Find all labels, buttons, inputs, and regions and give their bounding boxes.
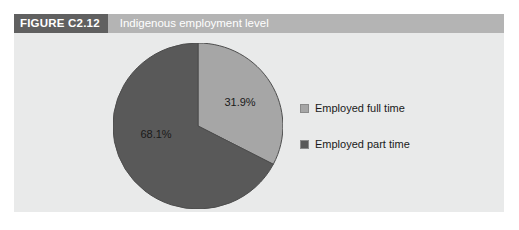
pie-value-label-part-time: 68.1% xyxy=(126,128,186,140)
legend-label-part-time: Employed part time xyxy=(315,138,410,150)
legend-swatch-icon-full-time xyxy=(300,104,309,113)
figure-title: Indigenous employment level xyxy=(108,14,504,33)
pie-chart xyxy=(113,43,283,209)
legend-item-employed-part-time: Employed part time xyxy=(300,137,480,151)
chart-legend: Employed full time Employed part time xyxy=(300,101,480,173)
chart-plot-area: 31.9% 68.1% Employed full time Employed … xyxy=(14,33,504,212)
pie-value-label-full-time: 31.9% xyxy=(210,96,270,108)
figure-number: FIGURE C2.12 xyxy=(14,14,108,33)
legend-swatch-icon-part-time xyxy=(300,140,309,149)
pie-chart-svg xyxy=(113,43,283,209)
legend-label-full-time: Employed full time xyxy=(315,102,405,114)
figure-header-bar: FIGURE C2.12 Indigenous employment level xyxy=(14,14,504,33)
legend-item-employed-full-time: Employed full time xyxy=(300,101,480,115)
figure-container: FIGURE C2.12 Indigenous employment level… xyxy=(0,0,519,230)
